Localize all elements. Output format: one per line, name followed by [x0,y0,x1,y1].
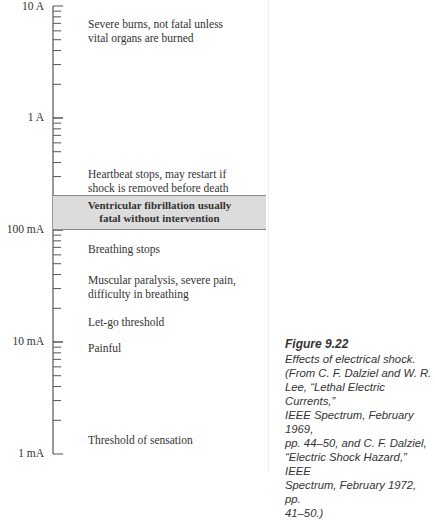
band-label: Ventricular fibrillation usually fatal w… [53,199,266,225]
axis-label-10ma: 10 mA [0,335,44,347]
axis-label-1ma: 1 mA [0,447,44,459]
axis-label-100ma: 100 mA [0,223,44,235]
ventricular-fibrillation-band: Ventricular fibrillation usually fatal w… [53,195,266,230]
effect-heartbeat-stops: Heartbeat stops, may restart if shock is… [88,167,229,195]
effect-let-go-threshold: Let-go threshold [88,315,164,329]
effect-painful: Painful [88,341,121,355]
axis-label-1a: 1 A [0,111,44,123]
effect-breathing-stops: Breathing stops [88,242,160,256]
figure-caption-text: Effects of electrical shock. (From C. F.… [285,352,435,520]
effect-threshold-of-sensation: Threshold of sensation [88,433,193,447]
figure-caption: Figure 9.22 Effects of electrical shock.… [285,337,435,520]
axis-label-10a: 10 A [0,0,44,12]
effect-muscular-paralysis: Muscular paralysis, severe pain, difficu… [88,273,236,301]
figure-number: Figure 9.22 [285,337,435,352]
column-divider [268,0,269,472]
effect-severe-burns: Severe burns, not fatal unless vital org… [88,17,223,45]
